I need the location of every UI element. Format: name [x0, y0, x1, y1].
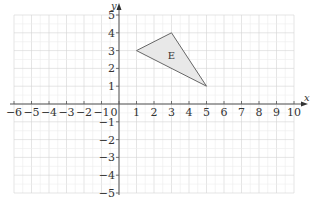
x-tick-label: −3: [58, 106, 74, 119]
x-tick-label: 10: [287, 106, 301, 119]
x-tick-label: 5: [203, 106, 210, 119]
x-tick-label: 7: [238, 106, 245, 119]
y-tick-label: −4: [99, 169, 115, 182]
x-tick-label: −6: [6, 106, 22, 119]
x-tick-label: 2: [151, 106, 158, 119]
x-tick-label: 3: [168, 106, 175, 119]
x-axis-label: x: [304, 92, 310, 103]
x-tick-label: −4: [41, 106, 57, 119]
y-tick-label: 3: [108, 45, 115, 58]
y-tick-label: 2: [108, 62, 115, 75]
x-tick-label: −5: [23, 106, 39, 119]
y-axis-label: y: [110, 0, 117, 11]
y-tick-label: 4: [108, 27, 115, 40]
x-tick-label: −2: [76, 106, 92, 119]
x-tick-label: 4: [186, 106, 193, 119]
y-axis-arrow-icon: [117, 3, 122, 10]
x-tick-label: 1: [133, 106, 140, 119]
x-tick-label: 8: [256, 106, 263, 119]
x-tick-label: 6: [221, 106, 228, 119]
y-tick-label: 1: [108, 80, 115, 93]
shape-label: E: [168, 50, 175, 61]
y-tick-label: −1: [99, 116, 115, 129]
coordinate-grid: E−6−5−4−3−2−1012345678910−5−4−3−2−112345…: [0, 0, 314, 200]
x-tick-label: 9: [273, 106, 280, 119]
y-tick-label: −5: [99, 187, 115, 200]
y-tick-label: −3: [99, 151, 115, 164]
y-tick-label: −2: [99, 134, 115, 147]
